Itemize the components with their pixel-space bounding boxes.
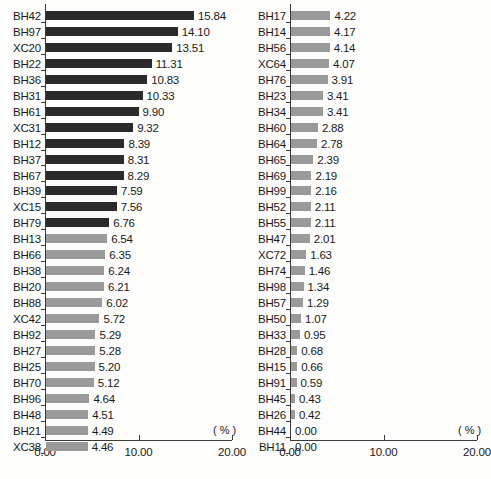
y-axis-tick <box>286 261 290 262</box>
bar-value-label: 6.24 <box>108 263 130 279</box>
bar-row: BH705.12 <box>0 375 245 391</box>
category-label: BH13 <box>13 231 41 247</box>
y-axis-tick <box>286 134 290 135</box>
y-axis-tick <box>41 197 45 198</box>
plot-area-right: 0.0010.0020.00( % )BH174.22BH144.17BH564… <box>245 0 490 479</box>
category-label: BH28 <box>258 343 286 359</box>
bar-value-label: 15.84 <box>198 8 226 24</box>
bar <box>291 266 305 275</box>
bar-value-label: 8.39 <box>128 136 150 152</box>
bar <box>46 75 147 84</box>
bar-row: BH552.11 <box>245 215 490 231</box>
y-axis-tick <box>41 341 45 342</box>
category-label: BH31 <box>13 88 41 104</box>
bar <box>291 139 317 148</box>
bar <box>291 362 297 371</box>
y-axis-tick <box>286 293 290 294</box>
bar <box>46 346 95 355</box>
bar-row: BH136.54 <box>0 231 245 247</box>
category-label: BH20 <box>13 279 41 295</box>
category-label: BH48 <box>13 407 41 423</box>
bar-row: BH741.46 <box>245 263 490 279</box>
bar-row: BH910.59 <box>245 375 490 391</box>
y-axis-tick <box>41 229 45 230</box>
bar-row: BH642.78 <box>245 136 490 152</box>
y-axis-tick <box>286 341 290 342</box>
bar <box>46 107 139 116</box>
category-label: XC31 <box>13 120 41 136</box>
bar-value-label: 0.00 <box>295 439 317 455</box>
bar-value-label: 9.32 <box>137 120 159 136</box>
bar <box>291 186 311 195</box>
y-axis-tick <box>41 86 45 87</box>
y-axis-tick <box>41 118 45 119</box>
y-axis-tick <box>286 421 290 422</box>
bar-value-label: 3.91 <box>332 72 354 88</box>
y-axis-tick <box>286 389 290 390</box>
bar <box>291 394 295 403</box>
bar <box>291 59 329 68</box>
y-axis-tick <box>41 213 45 214</box>
bar-value-label: 8.29 <box>128 168 150 184</box>
bar-row: BH397.59 <box>0 183 245 199</box>
category-label: BH98 <box>258 279 286 295</box>
bar <box>291 11 330 20</box>
bar-row: BH2211.31 <box>0 56 245 72</box>
bar <box>46 186 117 195</box>
bar-row: XC721.63 <box>245 247 490 263</box>
bar <box>46 378 94 387</box>
bar-row: BH144.17 <box>245 24 490 40</box>
y-axis-tick <box>41 293 45 294</box>
y-axis-tick <box>41 134 45 135</box>
y-axis-tick <box>286 181 290 182</box>
bar-value-label: 2.39 <box>317 152 339 168</box>
bar-value-label: 8.31 <box>128 152 150 168</box>
bar <box>291 330 300 339</box>
bar-row: BH619.90 <box>0 104 245 120</box>
bar <box>291 314 301 323</box>
bar-row: BH386.24 <box>0 263 245 279</box>
bar <box>291 218 311 227</box>
bar <box>291 27 330 36</box>
bar-row: BH472.01 <box>245 231 490 247</box>
bar-row: XC384.46 <box>0 439 245 455</box>
y-axis-tick <box>286 373 290 374</box>
bar-value-label: 2.88 <box>322 120 344 136</box>
y-axis-tick <box>286 86 290 87</box>
bar-row: BH214.49 <box>0 423 245 439</box>
bar <box>291 298 303 307</box>
category-label: BH27 <box>13 343 41 359</box>
category-label: BH79 <box>13 215 41 231</box>
category-label: BH38 <box>13 263 41 279</box>
bar-row: BH275.28 <box>0 343 245 359</box>
bar <box>291 43 330 52</box>
category-label: BH21 <box>13 423 41 439</box>
bar-row: BH440.00 <box>245 423 490 439</box>
bar-row: BH992.16 <box>245 183 490 199</box>
y-axis-tick <box>41 405 45 406</box>
category-label: BH11 <box>259 439 286 455</box>
bar-row: BH450.43 <box>245 391 490 407</box>
bar-value-label: 5.29 <box>99 327 121 343</box>
bar-row: BH206.21 <box>0 279 245 295</box>
bar-value-label: 0.59 <box>301 375 323 391</box>
y-axis-tick <box>41 150 45 151</box>
bar <box>46 362 95 371</box>
bar-value-label: 2.11 <box>315 215 336 231</box>
category-label: XC38 <box>13 439 41 455</box>
bar-value-label: 9.90 <box>143 104 165 120</box>
category-label: BH64 <box>258 136 286 152</box>
y-axis-tick <box>41 165 45 166</box>
category-label: XC15 <box>13 199 41 215</box>
bar-value-label: 6.02 <box>106 295 128 311</box>
bar-value-label: 13.51 <box>176 40 204 56</box>
category-label: BH34 <box>258 104 286 120</box>
bar-row: BH678.29 <box>0 168 245 184</box>
y-axis-tick <box>41 22 45 23</box>
category-label: XC20 <box>13 40 41 56</box>
bar-value-label: 4.46 <box>92 439 114 455</box>
bar <box>291 234 310 243</box>
bar-value-label: 0.68 <box>301 343 323 359</box>
bar-row: BH796.76 <box>0 215 245 231</box>
bar <box>46 298 102 307</box>
